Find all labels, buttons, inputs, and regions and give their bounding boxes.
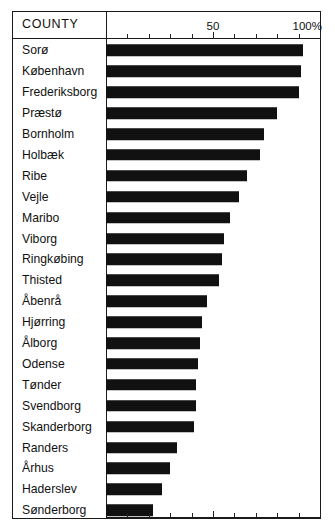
bar-ålborg[interactable] (106, 337, 200, 349)
bottom-axis-tick-90 (299, 513, 300, 518)
table-row[interactable]: Bornholm (13, 124, 320, 145)
bar-haderslev[interactable] (106, 484, 162, 496)
bar-track (106, 416, 320, 437)
bar-track (106, 395, 320, 416)
bar-track (106, 249, 320, 270)
table-row[interactable]: Odense (13, 354, 320, 375)
bar-track (106, 354, 320, 375)
axis-tick-50 (213, 32, 214, 39)
table-row[interactable]: Ringkøbing (13, 249, 320, 270)
table-row[interactable]: Århus (13, 458, 320, 479)
bar-ringkøbing[interactable] (106, 254, 222, 266)
table-row[interactable]: Frederiksborg (13, 82, 320, 103)
bottom-axis-tick-70 (256, 513, 257, 518)
table-row[interactable]: Skanderborg (13, 416, 320, 437)
bar-svendborg[interactable] (106, 400, 196, 412)
bar-sorø[interactable] (106, 45, 303, 57)
bar-århus[interactable] (106, 463, 170, 475)
bar-track (106, 270, 320, 291)
row-label-tønder: Tønder (22, 378, 61, 392)
bar-holbæk[interactable] (106, 149, 260, 161)
bar-track (106, 228, 320, 249)
row-label-svendborg: Svendborg (22, 399, 81, 413)
bar-track (106, 207, 320, 228)
table-row[interactable]: Viborg (13, 228, 320, 249)
table-row[interactable]: Vejle (13, 186, 320, 207)
row-label-maribo: Maribo (22, 211, 59, 225)
row-label-holbæk: Holbæk (22, 148, 64, 162)
table-row[interactable]: Åbenrå (13, 291, 320, 312)
bottom-axis-tick-30 (170, 513, 171, 518)
bottom-axis-tick-100 (320, 511, 321, 518)
row-label-københavn: København (22, 64, 84, 78)
row-label-haderslev: Haderslev (22, 482, 77, 496)
bar-track (106, 145, 320, 166)
axis-tick-label-100%: 100% (293, 20, 322, 32)
row-label-sønderborg: Sønderborg (22, 503, 86, 517)
bar-tønder[interactable] (106, 379, 196, 391)
bar-track (106, 437, 320, 458)
bar-randers[interactable] (106, 442, 177, 454)
row-label-skanderborg: Skanderborg (22, 420, 92, 434)
chart-header-band: COUNTY 50100% (13, 12, 320, 39)
row-label-århus: Århus (22, 461, 54, 475)
table-row[interactable]: Præstø (13, 103, 320, 124)
bar-københavn[interactable] (106, 66, 301, 78)
bar-track (106, 61, 320, 82)
bottom-axis (106, 504, 320, 518)
bar-hjørring[interactable] (106, 316, 202, 328)
bottom-axis-tick-50 (213, 511, 214, 518)
bar-track (106, 312, 320, 333)
table-row[interactable]: Ålborg (13, 333, 320, 354)
bar-track (106, 103, 320, 124)
bottom-axis-tick-80 (277, 513, 278, 518)
bar-track (106, 374, 320, 395)
bar-skanderborg[interactable] (106, 421, 194, 433)
bar-track (106, 291, 320, 312)
bar-thisted[interactable] (106, 275, 219, 287)
axis-scale: 50100% (106, 12, 320, 39)
chart-root: COUNTY 50100% SorøKøbenhavnFrederiksborg… (0, 0, 335, 532)
chart-body: SorøKøbenhavnFrederiksborgPræstøBornholm… (13, 39, 320, 518)
bar-track (106, 479, 320, 500)
table-row[interactable]: Hjørring (13, 312, 320, 333)
bottom-axis-tick-10 (127, 513, 128, 518)
bottom-axis-tick-60 (234, 513, 235, 518)
bar-track (106, 165, 320, 186)
table-row[interactable]: Maribo (13, 207, 320, 228)
bar-track (106, 124, 320, 145)
bar-maribo[interactable] (106, 212, 230, 224)
row-label-randers: Randers (22, 441, 68, 455)
axis-tick-100 (320, 32, 321, 39)
row-label-bornholm: Bornholm (22, 127, 74, 141)
row-label-hjørring: Hjørring (22, 315, 65, 329)
row-label-åbenrå: Åbenrå (22, 294, 61, 308)
row-label-ålborg: Ålborg (22, 336, 57, 350)
bar-åbenrå[interactable] (106, 295, 207, 307)
table-row[interactable]: Tønder (13, 374, 320, 395)
bar-præstø[interactable] (106, 107, 277, 119)
chart-frame: COUNTY 50100% SorøKøbenhavnFrederiksborg… (12, 11, 321, 519)
table-row[interactable]: Ribe (13, 165, 320, 186)
category-column-header: COUNTY (22, 17, 78, 31)
bar-bornholm[interactable] (106, 128, 264, 140)
table-row[interactable]: København (13, 61, 320, 82)
table-row[interactable]: Sorø (13, 40, 320, 61)
row-label-ribe: Ribe (22, 169, 47, 183)
bar-viborg[interactable] (106, 233, 224, 245)
table-row[interactable]: Randers (13, 437, 320, 458)
bar-frederiksborg[interactable] (106, 86, 299, 98)
row-label-viborg: Viborg (22, 232, 57, 246)
table-row[interactable]: Haderslev (13, 479, 320, 500)
row-label-odense: Odense (22, 357, 65, 371)
row-label-vejle: Vejle (22, 190, 48, 204)
bar-track (106, 333, 320, 354)
table-row[interactable]: Svendborg (13, 395, 320, 416)
bar-ribe[interactable] (106, 170, 247, 182)
table-row[interactable]: Holbæk (13, 145, 320, 166)
table-row[interactable]: Thisted (13, 270, 320, 291)
bar-vejle[interactable] (106, 191, 239, 203)
bar-odense[interactable] (106, 358, 198, 370)
bar-rows: SorøKøbenhavnFrederiksborgPræstøBornholm… (13, 39, 320, 518)
row-label-sorø: Sorø (22, 43, 48, 57)
